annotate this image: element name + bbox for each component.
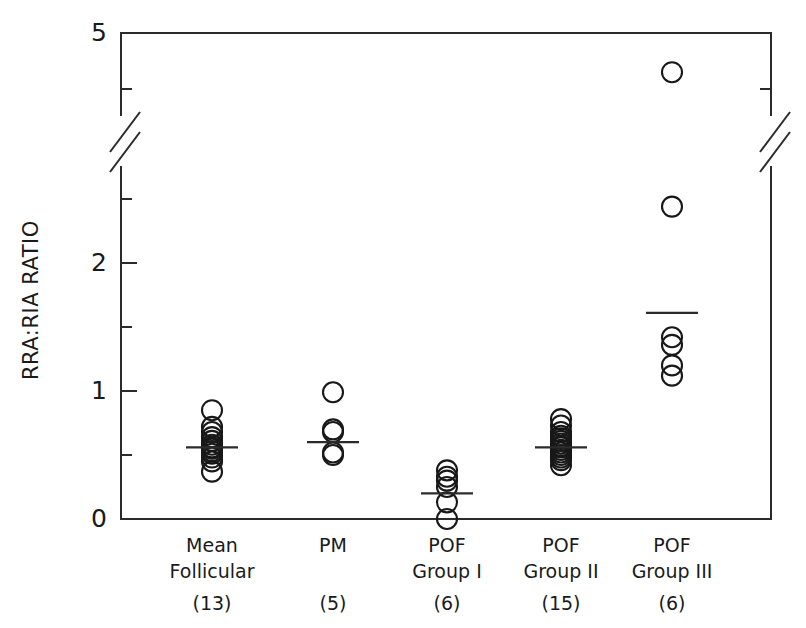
y-axis-break-right bbox=[760, 112, 790, 172]
cat-label-1-line2: Follicular bbox=[170, 560, 255, 582]
cat-count-5: (6) bbox=[659, 592, 686, 614]
ytick-label-0: 0 bbox=[91, 504, 107, 533]
y-axis-major-ticks bbox=[121, 33, 137, 519]
data-point bbox=[323, 382, 343, 402]
break-mask-left bbox=[113, 116, 130, 166]
ytick-label-5: 5 bbox=[91, 18, 107, 47]
data-group-1 bbox=[186, 400, 238, 481]
cat-label-1-line1: Mean bbox=[186, 534, 238, 556]
cat-label-5-line2: Group III bbox=[632, 560, 713, 582]
cat-count-2: (5) bbox=[320, 592, 347, 614]
x-axis-category-labels: Mean Follicular (13) PM (5) POF Group I … bbox=[170, 534, 713, 614]
ytick-label-1: 1 bbox=[91, 376, 107, 405]
data-group-4 bbox=[535, 409, 587, 475]
cat-label-5-line1: POF bbox=[653, 534, 690, 556]
ytick-label-2: 2 bbox=[91, 248, 107, 277]
cat-label-4-line2: Group II bbox=[523, 560, 598, 582]
data-group-2 bbox=[307, 382, 359, 465]
data-group-5 bbox=[646, 62, 698, 385]
chart-figure: 5 2 1 0 RRA:RIA RATIO Mean Follicular (1… bbox=[0, 0, 806, 628]
cat-label-4-line1: POF bbox=[542, 534, 579, 556]
cat-label-3-line2: Group I bbox=[412, 560, 482, 582]
cat-count-3: (6) bbox=[434, 592, 461, 614]
y-axis-title: RRA:RIA RATIO bbox=[19, 220, 43, 380]
data-points-layer bbox=[186, 62, 698, 529]
y-axis-tick-labels: 5 2 1 0 bbox=[91, 18, 107, 533]
cat-label-3-line1: POF bbox=[428, 534, 465, 556]
data-point bbox=[662, 197, 682, 217]
data-point bbox=[662, 62, 682, 82]
break-mask-right bbox=[763, 116, 780, 166]
dot-plot-svg: 5 2 1 0 RRA:RIA RATIO Mean Follicular (1… bbox=[0, 0, 806, 628]
cat-label-2-line1: PM bbox=[319, 534, 347, 556]
y-axis-break-left bbox=[110, 112, 140, 172]
cat-count-4: (15) bbox=[541, 592, 580, 614]
cat-count-1: (13) bbox=[192, 592, 231, 614]
